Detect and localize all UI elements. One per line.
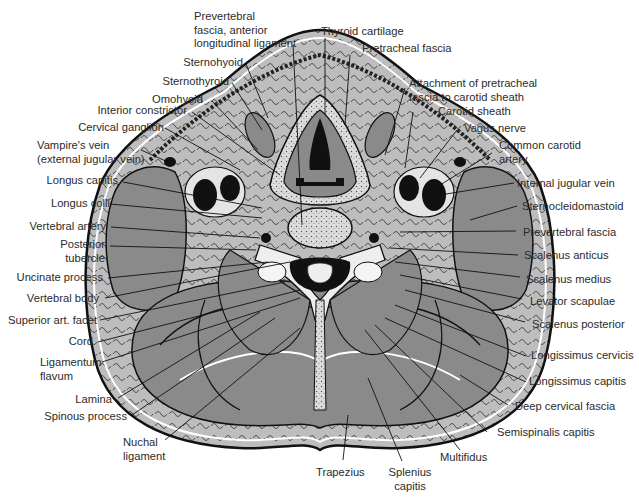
label-multifidus: Multifidus (440, 451, 487, 465)
label-vertebral-artery: Vertebral artery (30, 220, 106, 234)
label-thyroid-cartilage: Thyroid cartilage (321, 25, 404, 39)
label-nuchal-ligament: Nuchal ligament (123, 436, 165, 463)
label-scalenus-anticus: Scalenus anticus (524, 249, 609, 263)
label-posterior-tubercle: Posterior tubercle (60, 238, 105, 265)
label-splenius-capitis: Splenius capitis (385, 466, 435, 493)
label-sternocleidomastoid: Sternocleidomastoid (522, 200, 623, 214)
spinous-process (314, 300, 326, 410)
label-cervical-ganglion: Cervical ganglion (78, 121, 164, 135)
label-sternohyoid: Sternohyoid (183, 56, 243, 70)
label-scalenus-posterior: Scalenus posterior (532, 318, 625, 332)
label-prevertebral-fascia-anterior-ligament: Prevertebral fascia, anterior longitudin… (194, 10, 296, 51)
label-ligamentum-flavum: Ligamentum flavum (40, 356, 102, 383)
vertebral-body (288, 208, 352, 248)
sternocleidomastoid-left (106, 167, 186, 310)
label-vampires-vein: Vampire's vein (external jugular vein) (37, 139, 145, 166)
label-uncinate-process: Uncinate process (17, 271, 103, 285)
label-internal-jugular-vein: Internal jugular vein (517, 177, 615, 191)
spinal-cord (308, 263, 333, 283)
label-sternothyroid: Sternothyroid (162, 75, 229, 89)
label-lamina: Lamina (75, 393, 112, 407)
label-superior-art-facet: Superior art. facet (8, 314, 97, 328)
label-trapezius: Trapezius (316, 466, 365, 480)
carotid-sheath-right (394, 167, 454, 217)
label-attachment-pretracheal-fascia: Attachment of pretracheal fascia to caro… (409, 77, 537, 104)
label-longissimus-capitis: Longissimus capitis (529, 375, 626, 389)
label-vagus-nerve: Vagus nerve (464, 122, 526, 136)
label-carotid-sheath: Carotid sheath (438, 105, 511, 119)
label-longus-colli: Longus colli (51, 197, 110, 211)
carotid-sheath-left (185, 167, 245, 217)
label-spinous-process: Spinous process (44, 410, 127, 424)
label-longissimus-cervicis: Longissimus cervicis (531, 349, 634, 363)
label-cord: Cord (69, 335, 93, 349)
label-interior-constrictor: Interior constrictor (97, 104, 187, 118)
label-deep-cervical-fascia: Deep cervical fascia (515, 400, 615, 414)
label-longus-capitis: Longus capitis (46, 174, 118, 188)
label-common-carotid-artery: Common carotid artery (499, 139, 581, 166)
label-pretracheal-fascia: Pretracheal fascia (362, 42, 452, 56)
label-semispinalis-capitis: Semispinalis capitis (497, 426, 595, 440)
label-levator-scapulae: Levator scapulae (530, 295, 615, 309)
label-prevertebral-fascia: Prevertebral fascia (523, 226, 616, 240)
label-scalenus-medius: Scalenus medius (526, 273, 611, 287)
label-vertebral-body: Vertebral body (27, 292, 99, 306)
